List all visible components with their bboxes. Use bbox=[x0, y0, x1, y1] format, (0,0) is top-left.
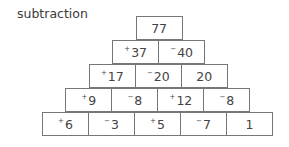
pyramid-cell: −7 bbox=[180, 112, 227, 136]
cell-value: 3 bbox=[111, 117, 119, 132]
pyramid-cell: −8 bbox=[111, 88, 158, 112]
pyramid-row: +9−8+12−8 bbox=[65, 88, 250, 112]
pyramid-cell: +37 bbox=[112, 40, 159, 64]
pyramid-row: 77 bbox=[136, 16, 183, 40]
sign-label: − bbox=[147, 69, 153, 77]
pyramid-row: +17−2020 bbox=[89, 64, 228, 88]
sign-label: − bbox=[170, 45, 176, 53]
cell-value: 1 bbox=[246, 117, 254, 132]
pyramid-cell: −20 bbox=[135, 64, 182, 88]
sign-label: + bbox=[81, 93, 87, 101]
sign-label: + bbox=[124, 45, 130, 53]
sign-label: − bbox=[219, 93, 225, 101]
cell-value: 8 bbox=[226, 93, 234, 108]
cell-value: 20 bbox=[196, 69, 212, 84]
cell-value: 37 bbox=[131, 45, 147, 60]
sign-label: − bbox=[127, 93, 133, 101]
sign-label: + bbox=[58, 117, 64, 125]
diagram-title: subtraction bbox=[17, 6, 88, 21]
pyramid-row: +6−3+5−71 bbox=[42, 112, 273, 136]
sign-label: − bbox=[104, 117, 110, 125]
pyramid-cell: 1 bbox=[226, 112, 273, 136]
sign-label: + bbox=[101, 69, 107, 77]
cell-value: 20 bbox=[154, 69, 170, 84]
cell-value: 17 bbox=[108, 69, 124, 84]
pyramid-cell: 77 bbox=[136, 16, 183, 40]
cell-value: 9 bbox=[88, 93, 96, 108]
pyramid-cell: +12 bbox=[157, 88, 204, 112]
cell-value: 77 bbox=[151, 21, 167, 36]
pyramid-cell: +6 bbox=[42, 112, 89, 136]
cell-value: 40 bbox=[177, 45, 193, 60]
pyramid-cell: 20 bbox=[181, 64, 228, 88]
sign-label: + bbox=[150, 117, 156, 125]
pyramid-cell: +5 bbox=[134, 112, 181, 136]
pyramid-cell: −3 bbox=[88, 112, 135, 136]
cell-value: 6 bbox=[65, 117, 73, 132]
cell-value: 8 bbox=[134, 93, 142, 108]
pyramid-cell: −40 bbox=[158, 40, 205, 64]
cell-value: 7 bbox=[203, 117, 211, 132]
pyramid-cell: −8 bbox=[203, 88, 250, 112]
sign-label: + bbox=[170, 93, 176, 101]
pyramid-cell: +17 bbox=[89, 64, 136, 88]
pyramid-cell: +9 bbox=[65, 88, 112, 112]
cell-value: 5 bbox=[157, 117, 165, 132]
pyramid-row: +37−40 bbox=[112, 40, 205, 64]
cell-value: 12 bbox=[176, 93, 192, 108]
sign-label: − bbox=[196, 117, 202, 125]
